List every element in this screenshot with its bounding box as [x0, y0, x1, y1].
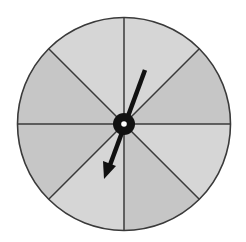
spinner-diagram: [0, 0, 246, 242]
hub-center-dot: [121, 121, 127, 127]
